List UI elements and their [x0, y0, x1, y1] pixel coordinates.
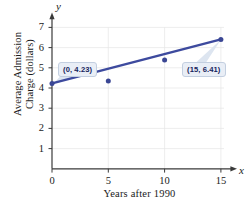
- data-point-15: [218, 37, 223, 42]
- x-tick-label-0: 0: [42, 176, 62, 186]
- y-axis-title-line2: Charge (dollars): [24, 39, 36, 109]
- y-axis-title: Average Admission Charge (dollars): [7, 4, 41, 144]
- y-axis: [49, 13, 54, 169]
- annotation-callout-endpoint: (15, 6.41): [182, 62, 226, 77]
- data-point-5: [106, 79, 111, 84]
- x-axis-variable-label: x: [239, 164, 244, 176]
- x-axis: [52, 166, 237, 171]
- data-point-10: [162, 58, 167, 63]
- y-tick-label-1: 1: [30, 144, 44, 154]
- y-axis-title-line1: Average Admission: [12, 32, 24, 116]
- x-tick-label-5: 5: [98, 176, 118, 186]
- x-axis-title: Years after 1990: [52, 188, 227, 199]
- annotation-callout-origin: (0, 4.23): [58, 62, 97, 77]
- x-tick-label-10: 10: [155, 176, 175, 186]
- y-axis-variable-label: y: [56, 0, 61, 12]
- data-point-0: [50, 81, 55, 86]
- x-tick-label-15: 15: [211, 176, 231, 186]
- vertical-gridlines: [108, 27, 221, 168]
- chart-figure: y x 1 2 3 4 5 6 7 0 5 10 15 (0, 4.23) (1…: [0, 0, 252, 207]
